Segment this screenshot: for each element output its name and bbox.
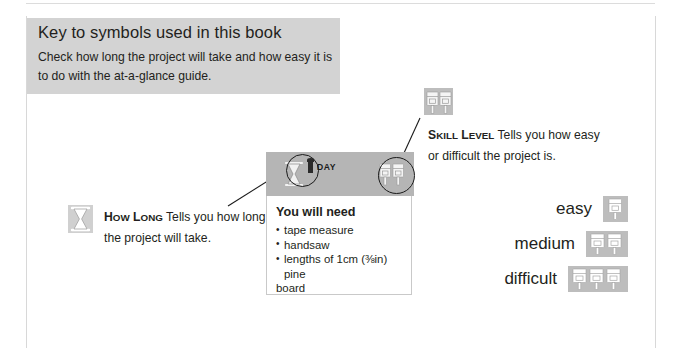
- skill-level-annotation: SKILL LEVEL Tells you how easy or diffic…: [428, 125, 600, 167]
- page-frame-right: [655, 16, 656, 348]
- intro-description: Check how long the project will take and…: [38, 48, 338, 86]
- list-item: lengths of 1cm (⅜in) pine: [276, 252, 402, 281]
- skill-level-icon: [586, 231, 628, 257]
- page-title: Key to symbols used in this book: [38, 23, 282, 42]
- legend-row-difficult: difficult: [445, 266, 628, 292]
- skill-level-icon: [424, 88, 453, 115]
- how-long-term: HOW LONG: [104, 210, 163, 224]
- callout-circle-skill: [378, 157, 415, 194]
- page-root: Key to symbols used in this book Check h…: [0, 0, 681, 348]
- skill-level-icon: [603, 196, 628, 222]
- hourglass-icon: [68, 205, 93, 233]
- list-item: tape measure: [276, 223, 402, 238]
- materials-heading: You will need: [276, 205, 402, 219]
- legend-label: easy: [556, 199, 592, 219]
- skill-level-icon: [568, 266, 628, 292]
- list-item: board: [276, 281, 402, 296]
- legend-label: difficult: [504, 269, 557, 289]
- how-long-annotation: HOW LONG Tells you how long the project …: [104, 207, 272, 248]
- callout-circle-hourglass: [286, 154, 319, 187]
- materials-list: tape measure handsaw lengths of 1cm (⅜in…: [276, 223, 402, 296]
- list-item: handsaw: [276, 238, 402, 253]
- legend-row-medium: medium: [463, 231, 628, 257]
- legend-row-easy: easy: [480, 196, 628, 222]
- skill-level-term: SKILL LEVEL: [428, 128, 494, 142]
- project-card-body: You will need tape measure handsaw lengt…: [266, 196, 412, 295]
- top-rule: [26, 3, 655, 4]
- legend-label: medium: [515, 234, 575, 254]
- duration-label: DAY: [317, 162, 336, 172]
